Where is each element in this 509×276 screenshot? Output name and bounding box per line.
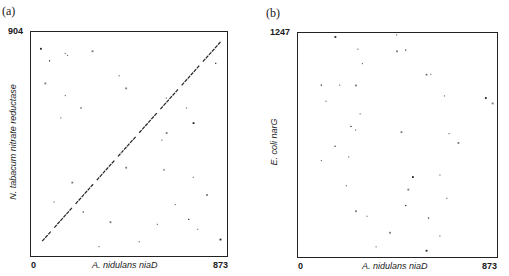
dot-matrix-plots — [0, 0, 509, 276]
